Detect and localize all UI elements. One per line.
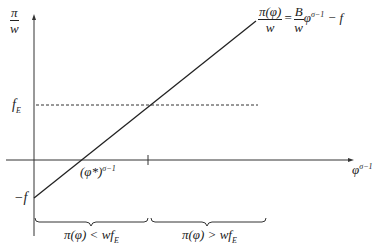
brace-left-label: π(φ) < wfE [64,228,119,245]
brace-right-label-text: π(φ) > wf [182,227,232,242]
diagram-canvas [0,0,380,247]
cutoff-label-base: (φ*) [80,164,102,179]
x-axis-label: φσ−1 [352,163,373,176]
y-axis-arrow-icon [32,14,36,20]
brace-right-label: π(φ) > wfE [182,228,237,245]
equation-rhs-term: φ [304,10,311,25]
equation-equals: = [284,10,291,25]
brace-right [151,218,266,226]
equation-rhs-exponent: σ−1 [311,10,324,19]
equation-lhs-denominator: w [266,20,275,34]
cutoff-label-exponent: σ−1 [102,164,115,173]
profit-line [34,21,256,198]
profit-equation-label: π(φ) w = B w φσ−1 − f [258,5,343,34]
fe-label-sub: E [16,106,21,115]
equation-rhs-numerator: B [294,5,304,20]
brace-right-label-sub: E [232,236,237,245]
y-axis-label-denominator: w [10,21,19,35]
brace-left [35,218,148,226]
fe-label: fE [12,98,21,115]
brace-left-label-text: π(φ) < wf [64,227,114,242]
equation-rhs-denominator: w [294,20,303,34]
equation-lhs-numerator: π(φ) [258,5,282,20]
y-axis-label-numerator: π [10,6,19,21]
equation-rhs-tail: − f [324,10,343,25]
y-axis-label: π w [10,6,19,35]
cutoff-label: (φ*)σ−1 [80,165,116,178]
x-axis-label-exponent: σ−1 [359,162,372,171]
neg-f-label: −f [14,191,27,205]
brace-left-label-sub: E [114,236,119,245]
